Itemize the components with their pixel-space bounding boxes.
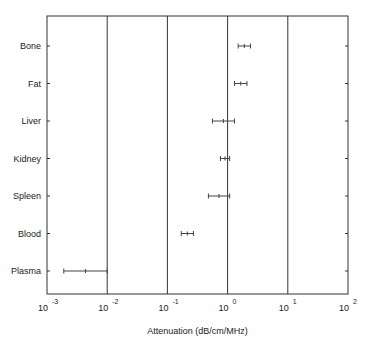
- chart-container: 10-310-210-1100101102Attenuation (dB/cm/…: [0, 0, 369, 343]
- x-tick-label: 10: [219, 303, 229, 313]
- x-tick-exponent: -1: [172, 298, 178, 305]
- x-tick-exponent: 2: [353, 298, 357, 305]
- x-tick-label: 10: [98, 303, 108, 313]
- y-category-label: Blood: [18, 229, 41, 239]
- y-category-label: Plasma: [11, 266, 41, 276]
- x-tick-exponent: -2: [112, 298, 118, 305]
- x-tick-label: 10: [339, 303, 349, 313]
- x-tick-exponent: 1: [293, 298, 297, 305]
- y-category-label: Bone: [20, 41, 41, 51]
- range-chart: 10-310-210-1100101102Attenuation (dB/cm/…: [0, 0, 369, 343]
- y-category-label: Liver: [21, 116, 41, 126]
- x-tick-label: 10: [279, 303, 289, 313]
- plot-frame: [47, 16, 348, 294]
- x-tick-exponent: 0: [233, 298, 237, 305]
- x-tick-label: 10: [38, 303, 48, 313]
- x-tick-label: 10: [158, 303, 168, 313]
- x-tick-exponent: -3: [52, 298, 58, 305]
- y-category-label: Fat: [28, 79, 42, 89]
- y-category-label: Spleen: [13, 191, 41, 201]
- y-category-label: Kidney: [13, 154, 41, 164]
- x-axis-label: Attenuation (dB/cm/MHz): [147, 326, 248, 336]
